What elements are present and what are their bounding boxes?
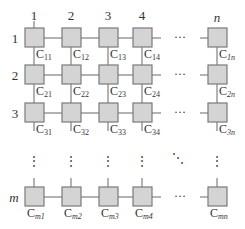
cell-label-3-2: C32 (73, 122, 89, 137)
cell-3-4 (133, 103, 152, 122)
grid-diagram: 1 2 3 4 n 1 2 3 m C11 C12 C13 C14 C1n C2… (0, 0, 245, 229)
ellipsis-row-3: ··· (174, 105, 186, 119)
ellipsis-row-2: ··· (174, 67, 186, 81)
column-header-n: n (214, 10, 221, 25)
row-header-2: 2 (12, 68, 19, 83)
cell-label-3-4: C34 (144, 122, 160, 137)
cell-3-1 (25, 103, 44, 122)
cell-3-n (208, 103, 227, 122)
cell-label-3-n: C3n (219, 122, 235, 137)
cell-labels: C11 C12 C13 C14 C1n C21 C22 C23 C24 C2n … (27, 47, 235, 221)
column-header-1: 1 (31, 8, 38, 23)
cell-1-4 (133, 28, 152, 47)
cell-m-4 (133, 187, 152, 206)
cell-1-1 (25, 28, 44, 47)
cell-label-3-1: C31 (36, 122, 52, 137)
cell-label-1-1: C11 (36, 47, 52, 62)
cell-2-4 (133, 65, 152, 84)
cell-3-3 (99, 103, 118, 122)
row-header-1: 1 (12, 31, 19, 46)
cell-2-2 (62, 65, 81, 84)
cell-label-3-3: C33 (110, 122, 126, 137)
horizontal-ellipses: ··· ··· ··· ··· (174, 30, 186, 203)
row-header-3: 3 (12, 106, 19, 121)
cell-label-m-1: Cm1 (27, 206, 45, 221)
cell-label-2-3: C23 (110, 84, 126, 99)
cell-label-m-n: Cmn (210, 206, 228, 221)
cell-label-1-3: C13 (110, 47, 126, 62)
ellipsis-col-1: ⋮ (28, 154, 40, 168)
cell-label-m-2: Cm2 (64, 206, 82, 221)
ellipsis-col-3: ⋮ (102, 154, 114, 168)
ellipsis-col-n: ⋮ (211, 154, 223, 168)
cell-m-n (208, 187, 227, 206)
cell-3-2 (62, 103, 81, 122)
column-header-2: 2 (68, 8, 75, 23)
column-header-4: 4 (139, 8, 146, 23)
cell-m-2 (62, 187, 81, 206)
ellipsis-row-1: ··· (174, 30, 186, 44)
cell-label-1-2: C12 (73, 47, 89, 62)
cell-label-2-4: C24 (144, 84, 160, 99)
cell-1-2 (62, 28, 81, 47)
cell-2-3 (99, 65, 118, 84)
ellipsis-diagonal: ⋱ (172, 151, 184, 165)
cell-label-2-2: C22 (73, 84, 89, 99)
column-header-3: 3 (105, 8, 112, 23)
cell-label-2-1: C21 (36, 84, 52, 99)
cell-label-m-3: Cm3 (101, 206, 119, 221)
cell-label-2-n: C2n (219, 84, 235, 99)
cell-label-m-4: Cm4 (135, 206, 153, 221)
ellipsis-col-4: ⋮ (136, 154, 148, 168)
ellipsis-col-2: ⋮ (65, 154, 77, 168)
row-header-m: m (9, 190, 18, 205)
cell-label-1-n: C1n (219, 47, 235, 62)
ellipsis-row-m: ··· (174, 189, 186, 203)
cell-label-1-4: C14 (144, 47, 160, 62)
cell-1-n (208, 28, 227, 47)
cell-2-n (208, 65, 227, 84)
vertical-ellipses: ⋮ ⋮ ⋮ ⋮ ⋮ (28, 154, 223, 168)
cell-1-3 (99, 28, 118, 47)
cell-2-1 (25, 65, 44, 84)
cell-m-1 (25, 187, 44, 206)
cell-m-3 (99, 187, 118, 206)
